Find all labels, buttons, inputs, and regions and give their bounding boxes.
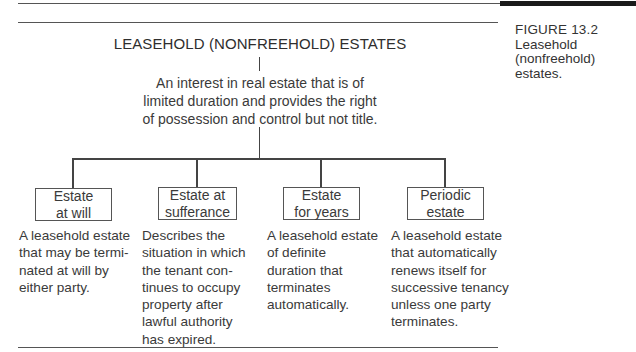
branch-drop-1 bbox=[72, 159, 74, 189]
node-label-line-2: sufferance bbox=[159, 204, 236, 221]
root-description-line-1: An interest in real estate that is of bbox=[90, 74, 430, 92]
top-accent-bar bbox=[500, 1, 636, 6]
node-label-line-1: Periodic bbox=[408, 187, 483, 204]
node-label-line-1: Estate bbox=[284, 187, 359, 204]
figure-top-rule bbox=[18, 22, 498, 23]
node-estate-at-will: Estate at will bbox=[35, 188, 112, 221]
description-estate-at-will: A leasehold estate that may be termi- na… bbox=[19, 227, 137, 296]
node-label-line-2: for years bbox=[284, 204, 359, 221]
top-rule bbox=[18, 3, 500, 4]
branch-drop-4 bbox=[444, 159, 446, 188]
root-description-line-3: of possession and control but not title. bbox=[90, 110, 430, 128]
root-description-line-2: limited duration and provides the right bbox=[90, 92, 430, 110]
node-estate-for-years: Estate for years bbox=[283, 187, 360, 220]
node-label-line-2: estate bbox=[408, 204, 483, 221]
figure-label: FIGURE 13.2 bbox=[515, 23, 636, 38]
root-description: An interest in real estate that is of li… bbox=[90, 74, 430, 128]
figure-caption-line-2: (nonfreehold) estates. bbox=[515, 52, 636, 81]
node-periodic-estate: Periodic estate bbox=[407, 187, 484, 220]
description-estate-for-years: A leasehold estate of definite duration … bbox=[267, 227, 387, 313]
trunk-connector bbox=[259, 127, 260, 159]
figure-caption: FIGURE 13.2 Leasehold (nonfreehold) esta… bbox=[515, 23, 636, 81]
node-label-line-1: Estate at bbox=[159, 187, 236, 204]
node-label-line-1: Estate bbox=[36, 188, 111, 205]
branch-drop-2 bbox=[196, 159, 198, 188]
figure-caption-line-1: Leasehold bbox=[515, 38, 636, 53]
description-periodic-estate: A leasehold estate that automatically re… bbox=[391, 227, 511, 331]
branch-drop-3 bbox=[320, 159, 322, 188]
node-label-line-2: at will bbox=[36, 205, 111, 222]
branch-connector bbox=[72, 158, 446, 160]
node-estate-at-sufferance: Estate at sufferance bbox=[158, 187, 237, 220]
description-estate-at-sufferance: Describes the situation in which the ten… bbox=[142, 227, 262, 348]
root-title: LEASEHOLD (NONFREEHOLD) ESTATES bbox=[60, 35, 460, 52]
root-connector bbox=[259, 57, 260, 71]
